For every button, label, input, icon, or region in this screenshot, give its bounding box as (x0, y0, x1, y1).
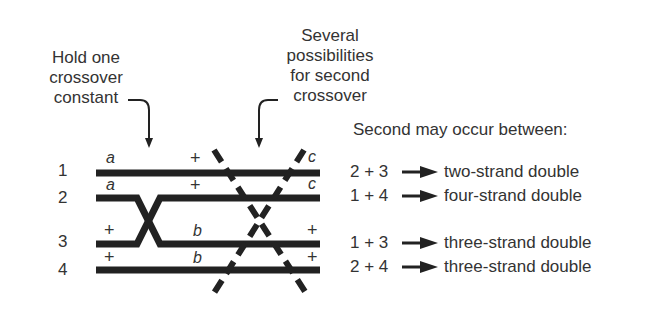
strand-3-line (96, 198, 320, 244)
allele-label-3-left: + (104, 220, 115, 241)
several-arrow-icon (259, 100, 278, 140)
allele-label-4-left: + (104, 247, 115, 268)
allele-label-4-middle: b (193, 249, 202, 267)
right-arrow-icon (402, 165, 438, 179)
several-caption-line: crossover (270, 86, 390, 106)
legend-result: two-strand double (444, 162, 579, 182)
legend-row: 2 + 3 two-strand double (350, 162, 579, 182)
strand-number-4: 4 (58, 260, 67, 280)
allele-label-2-right: c (308, 175, 316, 193)
allele-label-3-middle: b (193, 222, 202, 240)
several-caption-line: possibilities (270, 46, 390, 66)
several-caption-line: Several (270, 26, 390, 46)
strand-number-1: 1 (58, 161, 67, 181)
right-arrow-icon (402, 189, 438, 203)
allele-label-3-right: + (307, 220, 318, 241)
hold-caption: Hold one crossover constant (38, 48, 134, 108)
allele-label-4-right: + (307, 247, 318, 268)
strand-number-2: 2 (58, 188, 67, 208)
allele-label-2-left: a (106, 176, 115, 194)
hold-caption-line: Hold one (38, 48, 134, 68)
legend-title: Second may occur between: (353, 120, 568, 140)
hold-caption-line: constant (38, 88, 134, 108)
allele-label-1-left: a (106, 149, 115, 167)
allele-label-1-middle: + (190, 148, 201, 169)
hold-caption-line: crossover (38, 68, 134, 88)
legend-row: 1 + 3 three-strand double (350, 233, 591, 253)
legend-result: three-strand double (444, 257, 591, 277)
legend-row: 2 + 4 three-strand double (350, 257, 591, 277)
hold-arrowhead-icon (145, 138, 153, 148)
strand-number-3: 3 (58, 232, 67, 252)
strand-2-line (96, 198, 320, 244)
legend-result: four-strand double (444, 186, 582, 206)
legend-pair: 2 + 4 (350, 257, 402, 277)
legend-result: three-strand double (444, 233, 591, 253)
legend-pair: 1 + 4 (350, 186, 402, 206)
legend-pair: 1 + 3 (350, 233, 402, 253)
several-caption-line: for second (270, 66, 390, 86)
allele-label-2-middle: + (190, 175, 201, 196)
several-caption: Several possibilities for second crossov… (270, 26, 390, 106)
right-arrow-icon (402, 260, 438, 274)
legend-row: 1 + 4 four-strand double (350, 186, 582, 206)
several-arrowhead-icon (255, 138, 263, 148)
legend-pair: 2 + 3 (350, 162, 402, 182)
allele-label-1-right: c (308, 148, 316, 166)
right-arrow-icon (402, 236, 438, 250)
